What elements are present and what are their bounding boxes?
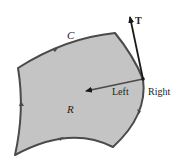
right-label: Right — [148, 86, 170, 97]
left-label: Left — [112, 86, 129, 97]
curve-label: C — [67, 29, 75, 41]
region-label: R — [66, 103, 74, 115]
point-on-curve — [141, 77, 145, 81]
tangent-label: T — [135, 15, 142, 26]
diagram-canvas: C T Left Right R — [0, 0, 180, 166]
